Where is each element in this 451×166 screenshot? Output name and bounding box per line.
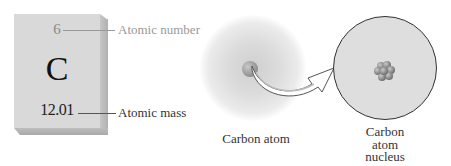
carbon-nucleus-caption: Carbon atom nucleus — [335, 126, 435, 164]
nucleus-cluster-icon — [373, 59, 397, 83]
element-card-side — [100, 14, 108, 134]
atomic-mass-value: 12.01 — [14, 101, 100, 119]
atomic-number-leader-line — [63, 30, 115, 31]
element-symbol: C — [14, 52, 100, 86]
atomic-mass-leader-line — [78, 113, 116, 114]
atomic-mass-label: Atomic mass — [118, 105, 186, 121]
carbon-atom-caption: Carbon atom — [211, 131, 301, 147]
caption-line-3: nucleus — [335, 151, 435, 164]
element-card-bottom — [14, 128, 108, 135]
atomic-number-label: Atomic number — [118, 22, 200, 38]
